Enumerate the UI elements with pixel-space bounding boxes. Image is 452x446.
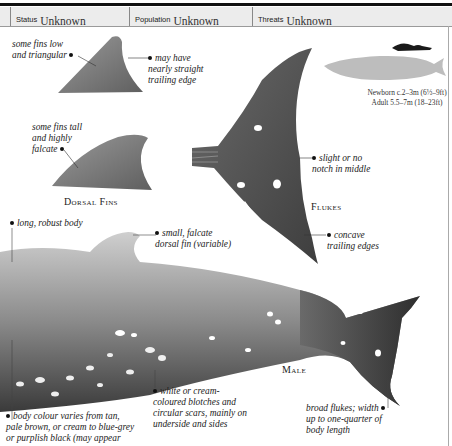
note-line: up to one-quarter of	[306, 414, 388, 425]
note-broad-flukes: broad flukes; width up to one-quarter of…	[306, 403, 388, 436]
caption-male: Male	[282, 364, 306, 375]
caption-flukes: Flukes	[311, 201, 342, 212]
note-tall-falcate: some fins tall and highly falcate	[32, 122, 82, 155]
note-text: body colour varies from tan,	[13, 411, 120, 421]
note-line: nearly straight	[148, 64, 203, 75]
note-line: concave	[327, 230, 379, 241]
note-text: concave	[334, 230, 365, 240]
note-text: falcate	[32, 144, 58, 154]
newborn-size: Newborn c.2–3m (6½–9ft)	[364, 88, 450, 98]
note-line: dorsal fin (variable)	[155, 239, 231, 250]
note-concave: concave trailing edges	[327, 230, 379, 252]
male-whale-illustration	[0, 232, 420, 412]
note-text: may have	[155, 53, 191, 63]
note-line: and triangular	[12, 50, 76, 61]
note-blotches: white or cream- coloured blotches and ci…	[153, 386, 247, 430]
note-small-dorsal: small, falcate dorsal fin (variable)	[155, 228, 231, 250]
size-note: Newborn c.2–3m (6½–9ft) Adult 5.5–7m (18…	[364, 88, 450, 108]
note-text: white or cream-	[160, 386, 220, 396]
note-line: slight or no	[312, 153, 370, 164]
bullet-dot-icon	[327, 233, 331, 237]
note-text: slight or no	[319, 153, 362, 163]
note-line: may have	[148, 53, 203, 64]
note-text: small, falcate	[162, 228, 213, 238]
note-line: falcate	[32, 144, 82, 155]
note-line: some fins low	[12, 39, 76, 50]
bullet-dot-icon	[153, 389, 157, 393]
bullet-dot-icon	[312, 156, 316, 160]
note-line: coloured blotches and	[153, 397, 247, 408]
note-line: pale brown, or cream to blue-grey	[6, 422, 134, 433]
note-line: notch in middle	[312, 164, 370, 175]
note-line: body length	[306, 425, 388, 436]
note-body-colour: body colour varies from tan, pale brown,…	[6, 411, 134, 444]
note-low-triangular: some fins low and triangular	[12, 39, 76, 61]
note-robust-body: long, robust body	[10, 218, 83, 229]
note-line: small, falcate	[155, 228, 231, 239]
note-text: long, robust body	[17, 218, 83, 228]
bullet-dot-icon	[69, 53, 73, 57]
note-text: broad flukes; width	[306, 403, 379, 413]
adult-size: Adult 5.5–7m (18–23ft)	[364, 98, 450, 108]
note-line: circular scars, mainly on	[153, 408, 247, 419]
bullet-dot-icon	[155, 231, 159, 235]
note-line: white or cream-	[153, 386, 247, 397]
note-line: or purplish black (may appear	[6, 433, 134, 444]
bullet-dot-icon	[10, 221, 14, 225]
bullet-dot-icon	[60, 147, 64, 151]
bullet-dot-icon	[6, 414, 10, 418]
note-line: body colour varies from tan,	[6, 411, 134, 422]
whale-silhouette-icon	[324, 56, 446, 80]
note-line: trailing edge	[148, 75, 203, 86]
note-notch: slight or no notch in middle	[312, 153, 370, 175]
note-line: and highly	[32, 133, 82, 144]
note-line: long, robust body	[10, 218, 83, 229]
diver-silhouette-icon	[392, 44, 432, 52]
note-line: some fins tall	[32, 122, 82, 133]
note-text: and triangular	[12, 50, 67, 60]
note-straight-edge: may have nearly straight trailing edge	[148, 53, 203, 86]
bullet-dot-icon	[148, 56, 152, 60]
bullet-dot-icon	[381, 406, 385, 410]
size-comparison	[324, 44, 446, 81]
note-line: trailing edges	[327, 241, 379, 252]
caption-dorsal-fins: Dorsal Fins	[64, 196, 118, 207]
note-line: broad flukes; width	[306, 403, 388, 414]
note-line: underside and sides	[153, 419, 247, 430]
